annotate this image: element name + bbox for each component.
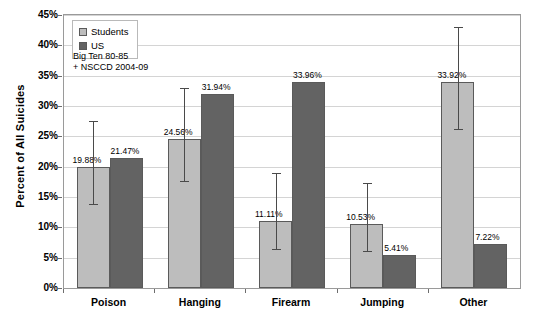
x-tick-label-other: Other [423,296,523,308]
value-label-students-other: 33.92% [437,71,466,80]
y-axis-ticks: 0%5%10%15%20%25%30%35%40%45% [0,14,58,289]
bar-us-firearm [292,82,325,288]
bar-us-other [474,244,507,288]
x-tick-mark [245,289,246,293]
y-tick-mark [58,106,62,107]
error-bar-cap-bottom [272,249,281,250]
value-label-students-hanging: 24.56% [164,128,193,137]
y-tick-mark [58,258,62,259]
legend-swatch-students-icon [79,28,87,36]
value-label-us-poison: 21.47% [111,147,140,156]
y-tick-label: 35% [2,71,58,81]
y-tick-label: 5% [2,253,58,263]
error-bar-cap-bottom [180,181,189,182]
y-tick-mark [58,197,62,198]
value-label-us-hanging: 31.94% [202,83,231,92]
error-bar-cap-bottom [89,204,98,205]
error-bar-cap-top [363,183,372,184]
bar-us-hanging [201,94,234,288]
error-bar-students-other [458,27,459,130]
error-bar-students-hanging [184,88,185,183]
legend-swatch-us-icon [79,42,87,50]
chart-annotation: Big Ten 80-85 + NSCCD 2004-09 [73,51,148,73]
x-tick-mark [337,289,338,293]
bar-us-poison [110,158,143,288]
value-label-us-firearm: 33.96% [293,71,322,80]
error-bar-students-firearm [276,173,277,251]
error-bar-cap-bottom [363,251,372,252]
y-tick-mark [58,136,62,137]
y-tick-mark [58,288,62,289]
error-bar-cap-top [89,121,98,122]
legend-label-students: Students [91,27,129,37]
value-label-us-other: 7.22% [475,233,499,242]
bar-us-jumping [383,255,416,288]
x-axis-labels: PoisonHangingFirearmJumpingOther [63,296,521,316]
y-tick-mark [58,167,62,168]
x-tick-mark [63,289,64,293]
y-tick-label: 25% [2,131,58,141]
value-label-us-jumping: 5.41% [384,244,408,253]
x-tick-label-firearm: Firearm [241,296,341,308]
value-label-students-firearm: 11.11% [255,210,283,219]
y-tick-label: 20% [2,162,58,172]
error-bar-cap-top [272,173,281,174]
x-tick-mark [154,289,155,293]
annotation-line-2: + NSCCD 2004-09 [73,62,148,73]
value-label-students-poison: 19.88% [73,156,102,165]
legend-item-students: Students [79,25,129,39]
annotation-line-1: Big Ten 80-85 [73,51,148,62]
value-label-students-jumping: 10.53% [346,213,375,222]
y-tick-label: 45% [2,10,58,20]
y-tick-mark [58,227,62,228]
error-bar-cap-bottom [454,129,463,130]
y-tick-mark [58,45,62,46]
y-tick-label: 30% [2,101,58,111]
error-bar-students-poison [93,121,94,206]
y-tick-label: 10% [2,222,58,232]
error-bar-students-jumping [367,183,368,252]
x-tick-label-poison: Poison [59,296,159,308]
x-tick-mark [428,289,429,293]
y-tick-label: 0% [2,283,58,293]
x-tick-label-hanging: Hanging [150,296,250,308]
error-bar-cap-top [454,27,463,28]
error-bar-cap-top [180,88,189,89]
y-tick-label: 40% [2,40,58,50]
x-tick-label-jumping: Jumping [332,296,432,308]
y-tick-mark [58,15,62,16]
bar-chart: Percent of All Suicides 0%5%10%15%20%25%… [0,0,541,333]
legend-label-us: US [91,41,104,51]
y-tick-label: 15% [2,192,58,202]
gridline [64,15,520,16]
y-tick-mark [58,76,62,77]
